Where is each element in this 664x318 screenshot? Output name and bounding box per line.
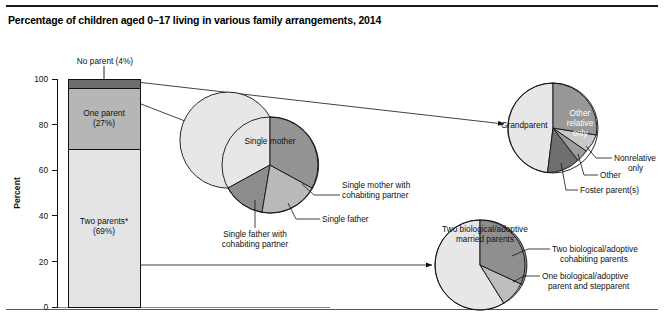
bar-label-one-parent-line2: (27%) (68, 118, 140, 128)
pie-label-nonrelative-only-line2: only (628, 163, 643, 173)
pie-label-single-mother-cohabiting-line2: cohabiting partner (342, 190, 408, 200)
pie-label-other: Other (600, 170, 621, 180)
pie-single-mother (180, 92, 319, 213)
pie-label-other-relative-only-line1: Other (558, 108, 602, 118)
bar-label-one-parent-line1: One parent (68, 108, 140, 118)
pie-label-single-mother: Single mother (225, 136, 315, 146)
pie-label-single-father: Single father (322, 214, 369, 224)
bar-label-two-parents-line2: (69%) (68, 226, 140, 236)
pie-label-other-relative-only-line2: relative (558, 118, 602, 128)
y-tick-40: 40 (26, 211, 48, 221)
pie-label-single-father-cohabiting-line2: cohabiting partner (200, 239, 310, 249)
bar-label-two-parents-line1: Two parents* (66, 216, 142, 226)
leader-nonrelative-only (586, 146, 612, 158)
y-tick-20: 20 (26, 257, 48, 267)
pie-label-one-bio-stepparent-line2: parent and stepparent (548, 281, 629, 291)
pie-label-other-relative-only-line3: only (558, 128, 602, 138)
pie-label-single-mother-cohabiting-line1: Single mother with (342, 180, 410, 190)
figure-root: Percentage of children aged 0–17 living … (0, 0, 664, 318)
pie-label-single-father-cohabiting-line1: Single father with (200, 229, 310, 239)
pie-label-two-bio-married-line1: Two biological/adoptive (425, 224, 545, 234)
y-tick-0: 0 (26, 302, 48, 312)
pie-label-foster-parents: Foster parent(s) (580, 185, 639, 195)
pie-label-two-bio-cohabiting-line2: cohabiting parents (560, 254, 628, 264)
pie-label-one-bio-stepparent-line1: One biological/adoptive (542, 271, 628, 281)
y-axis (52, 79, 58, 307)
pie-label-two-bio-cohabiting-line1: Two biological/adoptive (552, 244, 638, 254)
pie-label-two-bio-married-line2: married parents (425, 234, 545, 244)
y-tick-80: 80 (26, 120, 48, 130)
bar-label-no-parent: No parent (4%) (54, 56, 156, 66)
y-axis-title: Percent (12, 163, 22, 223)
bar-segment-no-parent (68, 79, 140, 88)
y-tick-60: 60 (26, 165, 48, 175)
pie-label-grandparent: Grandparent (501, 120, 548, 130)
pie-label-nonrelative-only-line1: Nonrelative (614, 153, 656, 163)
y-tick-100: 100 (26, 74, 48, 84)
